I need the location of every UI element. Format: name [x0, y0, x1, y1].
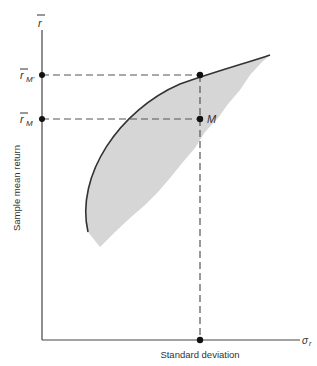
point-m — [197, 116, 203, 122]
r-m-prime-subscript: M' — [26, 75, 35, 84]
y-axis-label: Sample mean return — [11, 145, 22, 231]
y-axis-symbol: r — [38, 17, 43, 29]
point-sigma-axis — [197, 337, 203, 343]
r-m-label: r — [20, 113, 25, 125]
point-r-m-axis — [39, 116, 45, 122]
point-m-prime — [197, 72, 203, 78]
r-m-prime-label: r — [20, 69, 25, 81]
x-axis-symbol-subscript: r — [309, 340, 312, 347]
x-axis-label: Standard deviation — [160, 349, 239, 360]
x-axis-symbol: σ — [302, 335, 309, 346]
point-r-m-prime-axis — [39, 72, 45, 78]
feasible-region — [86, 55, 270, 247]
r-m-subscript: M — [26, 119, 33, 128]
chart-canvas: r r M' r M M σ r Standard deviation Samp… — [0, 0, 317, 366]
point-m-label: M — [207, 113, 217, 125]
